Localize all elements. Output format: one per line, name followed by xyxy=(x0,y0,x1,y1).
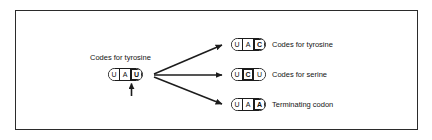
branch-2-base-2: C xyxy=(243,69,254,80)
branch-3-codon: U A A xyxy=(231,98,266,111)
branch-1-codon: U A C xyxy=(231,38,266,51)
branch-1-base-3: C xyxy=(254,39,265,50)
branch-2-label: Codes for serine xyxy=(272,71,327,79)
figure-border xyxy=(15,10,418,130)
codon-mutation-figure: Codes for tyrosine U A U U A C Codes for… xyxy=(0,0,432,140)
branch-3-label: Terminating codon xyxy=(272,101,333,109)
source-base-3: U xyxy=(131,69,142,80)
branch-1-label: Codes for tyrosine xyxy=(272,41,333,49)
source-codon-caption: Codes for tyrosine xyxy=(90,54,151,62)
branch-2-base-1: U xyxy=(232,69,243,80)
branch-1-base-1: U xyxy=(232,39,243,50)
branch-2-codon: U C U xyxy=(231,68,266,81)
branch-2-base-3: U xyxy=(254,69,265,80)
branch-3-base-2: A xyxy=(243,99,254,110)
branch-3-base-3: A xyxy=(254,99,265,110)
branch-1-base-2: A xyxy=(243,39,254,50)
source-base-1: U xyxy=(109,69,120,80)
branch-3-base-1: U xyxy=(232,99,243,110)
source-base-2: A xyxy=(120,69,131,80)
source-codon: U A U xyxy=(108,68,143,81)
